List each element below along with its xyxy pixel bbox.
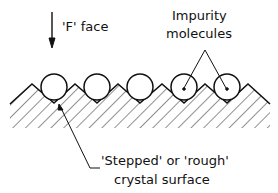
surface-label-line1: 'Stepped' or 'rough' — [101, 153, 229, 168]
impurity-label-line1: Impurity — [172, 8, 227, 23]
down-arrow-icon — [49, 12, 55, 48]
impurity-label-line2: molecules — [166, 26, 232, 41]
f-face-label: 'F' face — [62, 19, 108, 34]
surface-label-line2: crystal surface — [114, 172, 210, 187]
crystal-surface-diagram: 'F' face Impurity molecules 'Stepped' or… — [0, 0, 278, 193]
